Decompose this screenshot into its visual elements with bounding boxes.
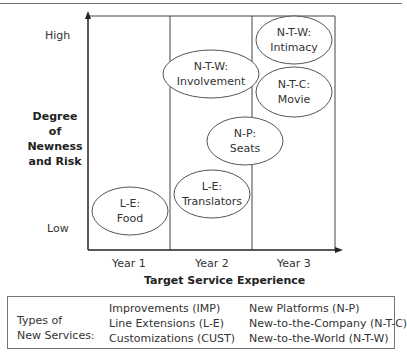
legend-column-1: Improvements (IMP) Line Extensions (L-E)…	[109, 301, 235, 346]
x-tick-year-1: Year 1	[112, 257, 146, 270]
node-involvement: N-T-W: Involvement	[163, 59, 259, 89]
x-axis-title: Target Service Experience	[144, 274, 305, 287]
y-axis-title: Degree of Newness and Risk	[25, 109, 85, 169]
y-axis-high-label: High	[45, 29, 70, 42]
x-axis-arrow-icon	[335, 247, 343, 253]
node-movie: N-T-C: Movie	[256, 77, 332, 107]
node-translators: L-E: Translators	[172, 179, 252, 209]
legend-title: Types of New Services:	[17, 313, 95, 343]
legend-column-2: New Platforms (N-P) New-to-the-Company (…	[249, 301, 407, 346]
node-food: L-E: Food	[92, 196, 168, 226]
legend-item: Customizations (CUST)	[109, 331, 235, 346]
x-tick-year-2: Year 2	[195, 257, 229, 270]
legend-item: New-to-the-World (N-T-W)	[249, 331, 407, 346]
legend-box: Types of New Services: Improvements (IMP…	[7, 296, 395, 349]
legend-item: Line Extensions (L-E)	[109, 316, 235, 331]
y-axis-low-label: Low	[47, 222, 69, 235]
legend-item: New Platforms (N-P)	[249, 301, 407, 316]
legend-item: New-to-the-Company (N-T-C)	[249, 316, 407, 331]
node-seats: N-P: Seats	[207, 126, 283, 156]
x-tick-year-3: Year 3	[277, 257, 311, 270]
y-axis-arrow-icon	[85, 11, 91, 19]
legend-item: Improvements (IMP)	[109, 301, 235, 316]
node-intimacy: N-T-W: Intimacy	[256, 25, 332, 55]
